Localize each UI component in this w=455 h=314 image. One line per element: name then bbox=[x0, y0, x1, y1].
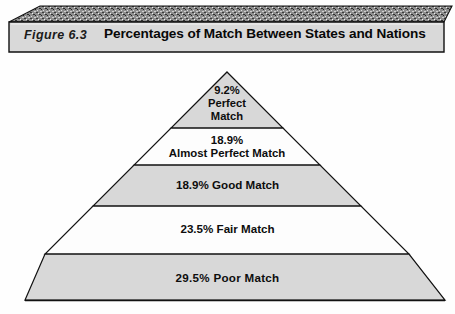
pyramid-graphic bbox=[0, 0, 455, 314]
pyramid-chart: 9.2% Perfect Match 18.9% Almost Perfect … bbox=[0, 0, 455, 314]
figure-container: Figure 6.3 Percentages of Match Between … bbox=[0, 0, 455, 314]
pyramid-tier-good-match bbox=[93, 165, 361, 206]
pyramid-tier-perfect-match bbox=[171, 72, 283, 128]
pyramid-tier-almost-perfect-match bbox=[134, 128, 320, 165]
pyramid-tier-fair-match bbox=[45, 206, 409, 254]
pyramid-tier-poor-match bbox=[25, 254, 445, 300]
